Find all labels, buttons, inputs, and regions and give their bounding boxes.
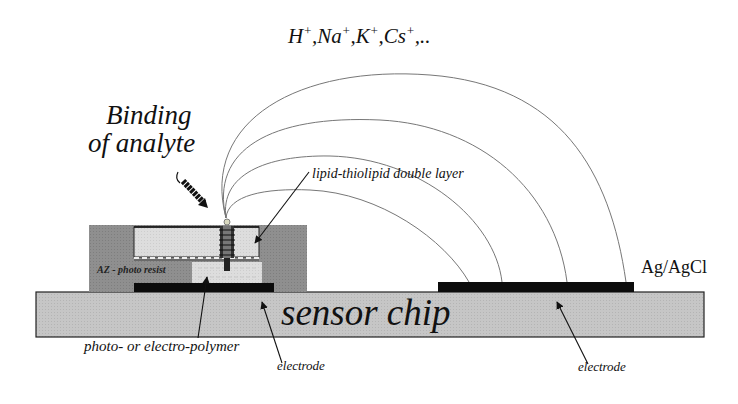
binding-arrow-icon — [177, 172, 208, 208]
binding-label-line1: Binding — [106, 100, 192, 131]
electrode-label-right: electrode — [578, 359, 626, 375]
photo-resist-label: AZ - photo resist — [97, 264, 166, 275]
sensor-chip-label: sensor chip — [281, 291, 451, 334]
polymer-label: photo- or electro-polymer — [84, 338, 239, 355]
lipid-label: lipid-thiolipid double layer — [312, 166, 464, 182]
working-electrode — [134, 283, 274, 292]
electrode-label-left: electrode — [277, 358, 325, 374]
lipid-layer — [134, 227, 259, 257]
binding-label-line2: of analyte — [88, 128, 195, 159]
ions-label: H+,Na+,K+,Cs+,.. — [288, 23, 431, 49]
ag-agcl-label: Ag/AgCl — [641, 257, 707, 278]
reference-electrode — [438, 282, 634, 292]
